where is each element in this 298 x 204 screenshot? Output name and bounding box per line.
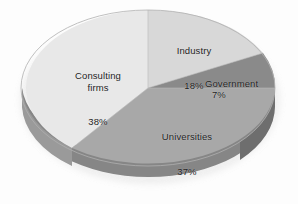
slice-label-consulting-firms-value: 38% bbox=[60, 116, 136, 128]
slice-label-government: Government 7% bbox=[194, 66, 290, 112]
slice-label-industry-name: Industry bbox=[158, 45, 230, 57]
pie-chart: Consulting firms 38% Industry 18% Univer… bbox=[0, 0, 298, 204]
slice-label-consulting-firms-name: Consulting firms bbox=[60, 70, 136, 93]
slice-label-universities-name: Universities bbox=[144, 131, 230, 143]
slice-label-government-name: Government bbox=[205, 78, 258, 89]
slice-label-government-value: 7% bbox=[212, 89, 226, 100]
slice-label-universities-value: 37% bbox=[144, 166, 230, 178]
slice-label-consulting-firms: Consulting firms 38% bbox=[60, 47, 136, 151]
slice-label-universities: Universities 37% bbox=[144, 108, 230, 200]
